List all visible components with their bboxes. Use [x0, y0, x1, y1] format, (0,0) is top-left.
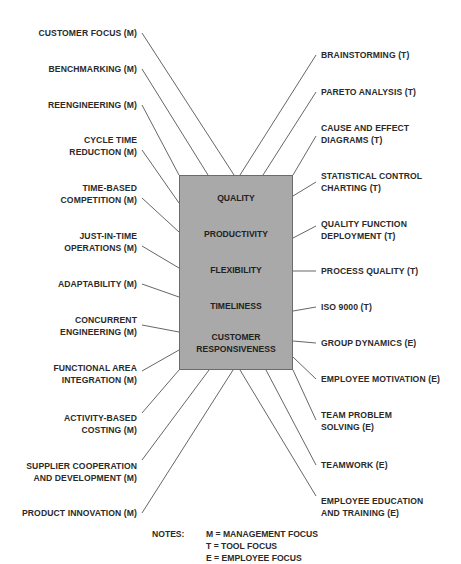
label-line: ADAPTABILITY (M)	[58, 278, 137, 290]
label-line: BENCHMARKING (M)	[49, 63, 137, 75]
label-line: EMPLOYEE EDUCATION	[321, 495, 423, 507]
label-line: CYCLE TIME	[69, 134, 137, 146]
connector-jit	[142, 246, 179, 268]
connector-iso	[293, 307, 316, 311]
label-line: CONCURRENT	[60, 314, 137, 326]
label-line: CHARTING (T)	[321, 182, 422, 194]
right-item-group-dynamics: GROUP DYNAMICS (E)	[321, 337, 416, 349]
notes-row: E = EMPLOYEE FOCUS	[152, 552, 318, 564]
left-item-benchmarking: BENCHMARKING (M)	[49, 63, 137, 75]
label-line: OPERATIONS (M)	[64, 242, 137, 254]
connector-functional	[142, 350, 179, 371]
label-line: QUALITY FUNCTION	[321, 218, 407, 230]
objectives-box: QUALITY PRODUCTIVITY FLEXIBILITY TIMELIN…	[179, 175, 293, 370]
note-management: M = MANAGEMENT FOCUS	[206, 529, 318, 539]
right-item-motivation: EMPLOYEE MOTIVATION (E)	[321, 373, 440, 385]
label-line: COSTING (M)	[64, 424, 137, 436]
label-line: ISO 9000 (T)	[321, 301, 372, 313]
label-line: REDUCTION (M)	[69, 146, 137, 158]
connector-qfd	[293, 226, 316, 238]
right-item-process-quality: PROCESS QUALITY (T)	[321, 265, 418, 277]
label-line: TEAM PROBLEM	[321, 409, 392, 421]
left-item-adaptability: ADAPTABILITY (M)	[58, 278, 137, 290]
objective-flexibility: FLEXIBILITY	[180, 264, 292, 276]
connector-cause-effect	[293, 136, 316, 175]
connector-pareto	[263, 92, 316, 175]
right-item-qfd: QUALITY FUNCTION DEPLOYMENT (T)	[321, 218, 407, 242]
label-line: JUST-IN-TIME	[64, 230, 137, 242]
label-line: ENGINEERING (M)	[60, 326, 137, 338]
connector-customer-focus	[142, 33, 234, 175]
label-line: FUNCTIONAL AREA	[53, 362, 137, 374]
label-line: TIME-BASED	[61, 182, 137, 194]
left-item-concurrent: CONCURRENT ENGINEERING (M)	[60, 314, 137, 338]
label-line: PROCESS QUALITY (T)	[321, 265, 418, 277]
connector-teamwork	[266, 370, 316, 465]
label-line: PARETO ANALYSIS (T)	[321, 86, 416, 98]
connector-team-problem	[293, 370, 316, 420]
connector-group-dynamics	[293, 341, 316, 343]
label-line: EMPLOYEE MOTIVATION (E)	[321, 373, 440, 385]
connector-motivation	[293, 357, 316, 379]
left-item-supplier: SUPPLIER COOPERATION AND DEVELOPMENT (M)	[26, 460, 137, 484]
objective-customer-responsiveness: CUSTOMER RESPONSIVENESS	[180, 331, 292, 355]
label-line: AND TRAINING (E)	[321, 507, 423, 519]
connector-supplier	[142, 370, 209, 460]
label-line: PRODUCT INNOVATION (M)	[22, 507, 137, 519]
label-line: DIAGRAMS (T)	[321, 134, 409, 146]
right-item-education: EMPLOYEE EDUCATION AND TRAINING (E)	[321, 495, 423, 519]
note-tool: T = TOOL FOCUS	[206, 541, 277, 551]
label-line: GROUP DYNAMICS (E)	[321, 337, 416, 349]
right-item-statistical: STATISTICAL CONTROL CHARTING (T)	[321, 170, 422, 194]
left-item-functional: FUNCTIONAL AREA INTEGRATION (M)	[53, 362, 137, 386]
connector-concurrent	[142, 325, 179, 332]
left-item-cycle-time: CYCLE TIME REDUCTION (M)	[69, 134, 137, 158]
connector-reengineering	[142, 105, 179, 175]
objective-line1: CUSTOMER	[180, 331, 292, 343]
right-item-pareto: PARETO ANALYSIS (T)	[321, 86, 416, 98]
left-item-activity-based: ACTIVITY-BASED COSTING (M)	[64, 412, 137, 436]
label-line: COMPETITION (M)	[61, 194, 137, 206]
notes-legend: NOTES:M = MANAGEMENT FOCUS T = TOOL FOCU…	[152, 528, 318, 564]
label-line: ACTIVITY-BASED	[64, 412, 137, 424]
connector-cycle-time	[142, 150, 179, 203]
left-item-customer-focus: CUSTOMER FOCUS (M)	[38, 27, 137, 39]
connector-benchmarking	[142, 69, 208, 175]
connector-education	[240, 370, 316, 496]
objective-quality: QUALITY	[180, 192, 292, 204]
label-line: SOLVING (E)	[321, 421, 392, 433]
label-line: STATISTICAL CONTROL	[321, 170, 422, 182]
connector-brainstorming	[240, 55, 316, 175]
right-item-cause-effect: CAUSE AND EFFECT DIAGRAMS (T)	[321, 122, 409, 146]
right-item-brainstorming: BRAINSTORMING (T)	[321, 49, 409, 61]
objective-timeliness: TIMELINESS	[180, 300, 292, 312]
left-item-jit: JUST-IN-TIME OPERATIONS (M)	[64, 230, 137, 254]
left-item-reengineering: REENGINEERING (M)	[48, 99, 137, 111]
connector-adaptability	[142, 284, 179, 297]
connector-time-based	[142, 198, 179, 232]
right-item-teamwork: TEAMWORK (E)	[321, 459, 388, 471]
right-item-iso: ISO 9000 (T)	[321, 301, 372, 313]
label-line: REENGINEERING (M)	[48, 99, 137, 111]
label-line: INTEGRATION (M)	[53, 374, 137, 386]
label-line: AND DEVELOPMENT (M)	[26, 472, 137, 484]
label-line: CUSTOMER FOCUS (M)	[38, 27, 137, 39]
notes-row: NOTES:M = MANAGEMENT FOCUS	[152, 528, 318, 540]
left-item-product-innovation: PRODUCT INNOVATION (M)	[22, 507, 137, 519]
left-item-time-based: TIME-BASED COMPETITION (M)	[61, 182, 137, 206]
objective-line2: RESPONSIVENESS	[180, 343, 292, 355]
notes-row: T = TOOL FOCUS	[152, 540, 318, 552]
connector-activity-based	[142, 370, 179, 413]
label-line: DEPLOYMENT (T)	[321, 230, 407, 242]
connector-statistical	[293, 182, 316, 196]
label-line: BRAINSTORMING (T)	[321, 49, 409, 61]
label-line: SUPPLIER COOPERATION	[26, 460, 137, 472]
right-item-team-problem: TEAM PROBLEM SOLVING (E)	[321, 409, 392, 433]
objective-productivity: PRODUCTIVITY	[180, 228, 292, 240]
note-employee: E = EMPLOYEE FOCUS	[206, 553, 302, 563]
notes-heading: NOTES:	[152, 528, 206, 540]
label-line: TEAMWORK (E)	[321, 459, 388, 471]
label-line: CAUSE AND EFFECT	[321, 122, 409, 134]
